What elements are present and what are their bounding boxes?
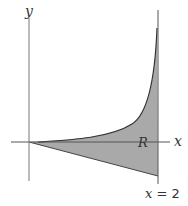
- right-boundary-label: x = 2: [145, 186, 180, 201]
- region-r-fill: [29, 28, 158, 176]
- y-axis-label: y: [24, 3, 34, 19]
- right-boundary-eq: = 2: [152, 186, 179, 201]
- region-diagram: y x R x = 2: [0, 0, 188, 206]
- region-label: R: [137, 135, 148, 150]
- x-axis-label: x: [174, 133, 182, 149]
